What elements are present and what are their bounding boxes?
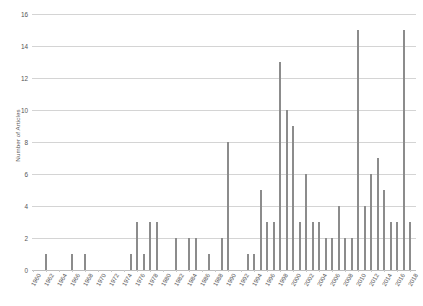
x-axis-tick-mark (150, 270, 151, 272)
x-axis-tick-mark (410, 270, 411, 272)
bar (344, 238, 346, 270)
x-axis-tick-mark (163, 270, 164, 272)
bar (195, 238, 197, 270)
x-axis-tick-mark (319, 270, 320, 272)
x-axis-tick-mark (98, 270, 99, 272)
y-axis-tick-label: 4 (24, 203, 28, 210)
bar (149, 222, 151, 270)
x-axis-tick-mark (137, 270, 138, 272)
bar (84, 254, 86, 270)
x-axis-tick-mark (228, 270, 229, 272)
x-axis-tick-mark (46, 270, 47, 272)
y-axis-title: Number of Articles (14, 81, 21, 191)
x-axis-tick-mark (33, 270, 34, 272)
bar (312, 222, 314, 270)
x-axis-tick-mark (254, 270, 255, 272)
plot-area: 0246810121416 (32, 14, 416, 270)
x-axis-tick-label: 2008 (342, 272, 355, 287)
x-axis-tick-mark (345, 270, 346, 272)
x-axis-tick-label: 1976 (133, 272, 146, 287)
bar (383, 190, 385, 270)
x-axis-tick-mark (280, 270, 281, 272)
x-axis-tick-label: 2014 (381, 272, 394, 287)
x-axis-tick-mark (85, 270, 86, 272)
bar (403, 30, 405, 270)
y-axis-tick-label: 12 (21, 75, 28, 82)
bar (357, 30, 359, 270)
x-axis-tick-label: 2006 (329, 272, 342, 287)
bar-series (32, 14, 416, 270)
x-axis-tick-label: 2016 (394, 272, 407, 287)
bar (409, 222, 411, 270)
x-axis-tick-label: 1970 (94, 272, 107, 287)
x-axis-tick-mark (293, 270, 294, 272)
x-axis-tick-mark (358, 270, 359, 272)
x-axis-tick-label: 1982 (172, 272, 185, 287)
x-axis-tick-label: 1962 (42, 272, 55, 287)
bar (390, 222, 392, 270)
bar (221, 238, 223, 270)
bar (45, 254, 47, 270)
x-axis-tick-mark (202, 270, 203, 272)
y-axis-tick-label: 2 (24, 235, 28, 242)
x-axis-tick-mark (267, 270, 268, 272)
bar (286, 110, 288, 270)
x-axis-tick-mark (124, 270, 125, 272)
x-axis-tick-label: 1990 (224, 272, 237, 287)
y-axis-tick-label: 10 (21, 107, 28, 114)
bar (266, 222, 268, 270)
x-axis-tick-label: 2000 (290, 272, 303, 287)
x-axis-tick-mark (397, 270, 398, 272)
x-axis-tick-label: 1966 (68, 272, 81, 287)
x-axis-tick-label: 1978 (146, 272, 159, 287)
x-axis-tick-label: 1960 (29, 272, 42, 287)
bar (279, 62, 281, 270)
x-axis-tick-label: 1984 (185, 272, 198, 287)
bar (318, 222, 320, 270)
x-axis-tick-mark (189, 270, 190, 272)
x-axis-tick-label: 2002 (303, 272, 316, 287)
x-axis-tick-label: 1994 (251, 272, 264, 287)
bar (396, 222, 398, 270)
x-axis-tick-mark (332, 270, 333, 272)
x-axis-tick-labels: 1960196219641966196819701972197419761978… (32, 272, 416, 306)
bar (260, 190, 262, 270)
bar (71, 254, 73, 270)
x-axis-tick-label: 1986 (198, 272, 211, 287)
y-axis-tick-label: 6 (24, 171, 28, 178)
x-axis-tick-label: 2010 (355, 272, 368, 287)
x-axis-tick-label: 1968 (81, 272, 94, 287)
x-axis-tick-mark (176, 270, 177, 272)
bar (188, 238, 190, 270)
x-axis-tick-label: 1998 (277, 272, 290, 287)
x-axis-tick-label: 1988 (211, 272, 224, 287)
x-axis-tick-label: 1964 (55, 272, 68, 287)
bar (377, 158, 379, 270)
x-axis-tick-label: 1992 (237, 272, 250, 287)
bar (370, 174, 372, 270)
bar (208, 254, 210, 270)
bar (364, 206, 366, 270)
bar (143, 254, 145, 270)
bar (305, 174, 307, 270)
bar (351, 238, 353, 270)
x-axis-tick-label: 1974 (120, 272, 133, 287)
x-axis-tick-mark (72, 270, 73, 272)
y-axis-tick-label: 14 (21, 43, 28, 50)
x-axis-tick-label: 2018 (407, 272, 420, 287)
x-axis-tick-label: 1972 (107, 272, 120, 287)
x-axis-tick-label: 2012 (368, 272, 381, 287)
x-axis-tick-mark (111, 270, 112, 272)
bar (253, 254, 255, 270)
y-axis-tick-label: 0 (24, 267, 28, 274)
bar (292, 126, 294, 270)
bar-chart: Number of Articles 0246810121416 1960196… (0, 0, 423, 306)
bar (227, 142, 229, 270)
bar (273, 222, 275, 270)
x-axis-tick-label: 1996 (264, 272, 277, 287)
x-axis-tick-label: 2004 (316, 272, 329, 287)
x-axis-tick-mark (59, 270, 60, 272)
x-axis-tick-mark (371, 270, 372, 272)
bar (338, 206, 340, 270)
x-axis-tick-mark (306, 270, 307, 272)
